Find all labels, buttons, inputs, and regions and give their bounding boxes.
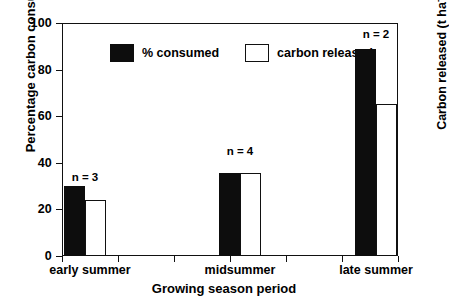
y-axis-right-title-text: Carbon released (t ha [435,2,449,130]
y-axis-right-title-exponent: -1 [433,0,443,2]
x-tick-5 [342,256,343,262]
annotation-n-midsummer: n = 4 [210,145,270,157]
y-tick-label-60: 60 [24,109,52,123]
annotation-n-early-summer: n = 3 [55,171,115,183]
bar-consumed-late-summer [355,49,376,256]
bar-consumed-midsummer [219,173,240,256]
x-tick-3 [230,256,231,262]
legend-item-consumed: % consumed [110,44,219,62]
y-tick-label-20: 20 [24,202,52,216]
y-tick-label-0: 0 [24,249,52,263]
y-axis-right-title: Carbon released (t ha-1) [433,0,449,175]
x-tick-0 [62,256,63,262]
x-tick-6 [398,256,399,262]
bar-consumed-early-summer [64,186,85,256]
chart-legend: % consumed carbon released [110,44,373,62]
x-tick-label-midsummer: midsummer [180,263,300,277]
x-tick-label-late-summer: late summer [316,263,436,277]
legend-swatch-released [245,44,269,62]
x-axis-title: Growing season period [0,281,448,296]
y-tick-label-40: 40 [24,156,52,170]
x-tick-2 [174,256,175,262]
bar-released-late-summer [376,104,397,256]
legend-swatch-consumed [110,44,134,62]
x-tick-1 [118,256,119,262]
y-tick-label-100: 100 [24,16,52,30]
legend-item-released: carbon released [245,44,373,62]
bar-released-early-summer [85,200,106,256]
x-tick-label-early-summer: early summer [25,263,155,277]
x-tick-4 [286,256,287,262]
bar-released-midsummer [240,173,261,256]
annotation-n-late-summer: n = 2 [346,28,406,40]
y-tick-label-80: 80 [24,63,52,77]
legend-label-consumed: % consumed [142,46,219,60]
